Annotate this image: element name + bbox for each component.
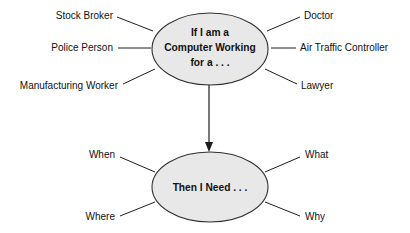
bottom-node-line-1: Then I Need . . . xyxy=(173,182,248,193)
spoke-label-when: When xyxy=(0,150,115,160)
spoke-label-where: Where xyxy=(0,212,115,222)
connector-why xyxy=(265,202,300,216)
top-node-line-2: Computer Working xyxy=(164,42,256,53)
connector-manufacturing-worker xyxy=(123,69,155,84)
diagram-graphics-layer: If I am a Computer Working for a . . . T… xyxy=(0,0,410,233)
connector-when xyxy=(120,157,155,172)
spoke-label-manufacturing-worker: Manufacturing Worker xyxy=(0,81,118,91)
connector-what xyxy=(265,157,300,172)
connector-doctor xyxy=(267,17,300,31)
spoke-label-why: Why xyxy=(305,212,325,222)
top-node-line-1: If I am a xyxy=(191,27,229,38)
flow-arrow-head-icon xyxy=(205,142,213,152)
spoke-label-doctor: Doctor xyxy=(304,11,333,21)
connector-where xyxy=(120,202,155,216)
spoke-label-what: What xyxy=(305,150,328,160)
connector-stock-broker xyxy=(117,17,153,31)
spoke-label-stock-broker: Stock Broker xyxy=(0,11,113,21)
connector-lawyer xyxy=(265,69,297,84)
spoke-label-lawyer: Lawyer xyxy=(301,81,333,91)
spoke-label-air-traffic-controller: Air Traffic Controller xyxy=(300,43,388,53)
diagram-canvas: If I am a Computer Working for a . . . T… xyxy=(0,0,410,233)
spoke-label-police-person: Police Person xyxy=(0,43,113,53)
top-node-line-3: for a . . . xyxy=(190,57,229,68)
